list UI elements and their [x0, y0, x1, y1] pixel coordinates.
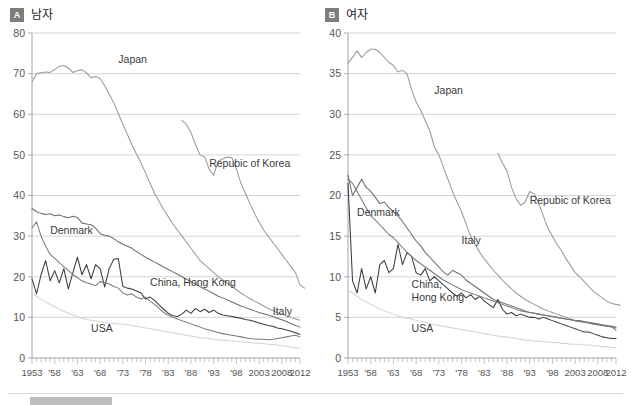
series-label-china-hong-kong: Hong Kong [412, 291, 465, 303]
series-label-italy: Italy [273, 305, 293, 317]
x-tick-label: 2012 [605, 367, 626, 378]
x-tick-label: '88 [185, 367, 197, 378]
series-label-china-hong-kong: China, [412, 278, 442, 290]
x-tick-label: '78 [139, 367, 151, 378]
y-tick-label: 5 [335, 311, 341, 323]
x-tick-label: '68 [94, 367, 106, 378]
y-tick-label: 10 [13, 311, 25, 323]
x-tick-label: '63 [71, 367, 83, 378]
panel-male: A 남자 010203040506070801953'58'63'68'73'7… [0, 0, 315, 403]
x-tick-label: 1953 [21, 367, 42, 378]
x-tick-label: 2003 [249, 367, 270, 378]
chart-female-svg: 05101520253035401953'58'63'68'73'78'83'8… [315, 0, 631, 403]
chart-male: 010203040506070801953'58'63'68'73'78'83'… [0, 0, 315, 403]
x-tick-label: '78 [455, 367, 467, 378]
footer-divider [8, 393, 623, 394]
chart-female: 05101520253035401953'58'63'68'73'78'83'8… [315, 0, 630, 403]
y-tick-label: 80 [13, 27, 25, 39]
y-tick-label: 40 [13, 189, 25, 201]
panel-female: B 여자 05101520253035401953'58'63'68'73'78… [315, 0, 630, 403]
x-tick-label: '58 [365, 367, 377, 378]
footer-badge-partial [30, 397, 112, 405]
x-tick-label: '93 [207, 367, 219, 378]
x-tick-label: '63 [387, 367, 399, 378]
series-label-repubic-of-korea: Repubic of Korea [530, 194, 611, 206]
series-label-japan: Japan [118, 53, 147, 65]
series-label-china-hong-kong: China, Hong Kong [150, 276, 236, 288]
y-tick-label: 20 [329, 189, 341, 201]
y-tick-label: 30 [13, 230, 25, 242]
series-label-usa: USA [412, 322, 434, 334]
series-label-italy: Italy [462, 234, 482, 246]
y-tick-label: 15 [329, 230, 341, 242]
x-tick-label: '88 [501, 367, 513, 378]
y-tick-label: 35 [329, 67, 341, 79]
y-tick-label: 70 [13, 67, 25, 79]
x-tick-label: '58 [49, 367, 61, 378]
x-tick-label: '68 [410, 367, 422, 378]
y-tick-label: 30 [329, 108, 341, 120]
series-label-denmark: Denmark [357, 206, 400, 218]
series-line-japan [348, 49, 616, 328]
series-line-usa [32, 293, 300, 348]
y-tick-label: 10 [329, 271, 341, 283]
x-tick-label: 2012 [289, 367, 310, 378]
x-tick-label: '98 [230, 367, 242, 378]
x-tick-label: '98 [546, 367, 558, 378]
y-tick-label: 60 [13, 108, 25, 120]
chart-male-svg: 010203040506070801953'58'63'68'73'78'83'… [0, 0, 315, 403]
y-tick-label: 0 [335, 352, 341, 364]
y-tick-label: 40 [329, 27, 341, 39]
x-tick-label: '73 [117, 367, 129, 378]
x-tick-label: '93 [523, 367, 535, 378]
series-label-usa: USA [91, 322, 113, 334]
y-tick-label: 25 [329, 149, 341, 161]
y-tick-label: 50 [13, 149, 25, 161]
x-tick-label: '73 [433, 367, 445, 378]
series-line-repubic-of-korea [498, 153, 621, 305]
series-label-repubic-of-korea: Repubic of Korea [209, 157, 290, 169]
series-label-denmark: Denmark [50, 224, 93, 236]
series-line-repubic-of-korea [182, 120, 305, 288]
y-tick-label: 0 [19, 352, 25, 364]
y-tick-label: 20 [13, 271, 25, 283]
x-tick-label: 2003 [565, 367, 586, 378]
series-label-japan: Japan [434, 84, 463, 96]
x-tick-label: '83 [162, 367, 174, 378]
x-tick-label: 1953 [337, 367, 358, 378]
series-line-china-hong-kong [32, 257, 300, 334]
x-tick-label: '83 [478, 367, 490, 378]
